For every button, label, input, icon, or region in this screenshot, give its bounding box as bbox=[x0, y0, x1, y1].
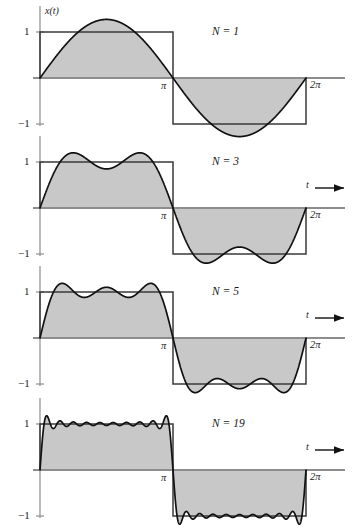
y-tick-label-positive-one: 1 bbox=[24, 286, 30, 297]
x-tick-label-pi: π bbox=[161, 211, 166, 222]
t-axis-arrow-head bbox=[334, 446, 344, 454]
waveform-plot bbox=[0, 130, 355, 260]
x-tick-label-pi: π bbox=[161, 341, 166, 352]
x-tick-label-pi: π bbox=[161, 473, 166, 484]
y-tick-label-positive-one: 1 bbox=[24, 156, 30, 167]
x-tick-label-pi: π bbox=[161, 81, 166, 92]
x-tick-label-2pi: 2π bbox=[310, 80, 321, 91]
waveform-plot bbox=[0, 0, 355, 130]
t-axis-label: t bbox=[306, 310, 309, 320]
panel-n-3: 1−1π2πN = 3t bbox=[0, 130, 355, 260]
panel-label-harmonics: N = 3 bbox=[212, 156, 239, 168]
y-tick-label-positive-one: 1 bbox=[24, 26, 30, 37]
x-tick-label-2pi: 2π bbox=[310, 472, 321, 483]
y-tick-label-negative-one: −1 bbox=[18, 118, 30, 129]
x-tick-label-2pi: 2π bbox=[310, 210, 321, 221]
panel-label-harmonics: N = 5 bbox=[212, 286, 239, 298]
waveform-plot bbox=[0, 260, 355, 390]
t-axis-arrow-head bbox=[334, 184, 344, 192]
panel-label-harmonics: N = 19 bbox=[212, 418, 245, 430]
y-axis-label: x(t) bbox=[45, 6, 59, 16]
x-tick-label-2pi: 2π bbox=[310, 340, 321, 351]
t-axis-label: t bbox=[306, 180, 309, 190]
y-tick-label-negative-one: −1 bbox=[18, 510, 30, 521]
panel-n-19: 1−1π2πN = 19t bbox=[0, 392, 355, 522]
panel-n-1: x(t)1−1π2πN = 1 bbox=[0, 0, 355, 130]
y-tick-label-negative-one: −1 bbox=[18, 248, 30, 259]
waveform-plot bbox=[0, 392, 355, 522]
t-axis-arrow-head bbox=[334, 314, 344, 322]
panel-n-5: 1−1π2πN = 5t bbox=[0, 260, 355, 390]
y-tick-label-positive-one: 1 bbox=[24, 418, 30, 429]
fourier-series-figure: x(t)1−1π2πN = 11−1π2πN = 3t1−1π2πN = 5t1… bbox=[0, 0, 355, 532]
y-tick-label-negative-one: −1 bbox=[18, 378, 30, 389]
t-axis-label: t bbox=[306, 442, 309, 452]
panel-label-harmonics: N = 1 bbox=[212, 26, 239, 38]
